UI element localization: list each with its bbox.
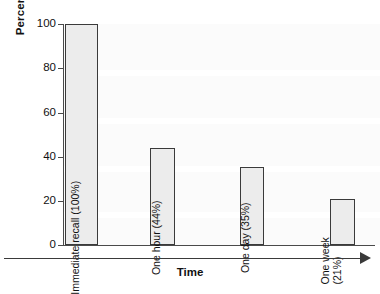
background-band — [63, 24, 380, 70]
time-axis-arrow-head — [360, 252, 371, 264]
time-axis-arrow-line — [4, 258, 362, 259]
y-tick-mark — [58, 24, 63, 25]
bar-one-week: One week(21%) — [330, 199, 355, 245]
bar-label: One day (35%) — [240, 203, 252, 274]
y-tick-label: 60 — [22, 107, 56, 119]
y-tick-mark — [58, 201, 63, 202]
x-axis-title: Time — [0, 266, 380, 278]
y-tick-label: 80 — [22, 62, 56, 74]
bar-one-hour: One hour (44%) — [150, 148, 175, 245]
y-tick-label: 0 — [22, 239, 56, 251]
forgetting-curve-bar-chart: Percentage remembered 100 80 60 40 20 0 … — [0, 0, 380, 294]
y-tick-label: 40 — [22, 151, 56, 163]
y-tick-label: 20 — [22, 195, 56, 207]
y-tick-mark — [58, 157, 63, 158]
bar-immediate-recall: Immediate recall (100%) — [65, 24, 98, 245]
y-tick-mark — [58, 68, 63, 69]
y-axis-title: Percentage remembered — [10, 0, 30, 62]
y-axis-line — [63, 24, 64, 246]
y-tick-label: 100 — [22, 18, 56, 30]
bar-label: One hour (44%) — [151, 201, 163, 276]
background-band — [63, 76, 380, 118]
y-tick-mark — [58, 113, 63, 114]
background-band — [63, 124, 380, 166]
bar-one-day: One day (35%) — [240, 167, 264, 245]
